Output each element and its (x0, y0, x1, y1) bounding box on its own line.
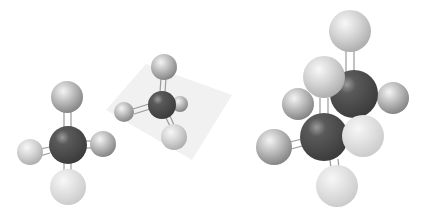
carbon-atom (148, 91, 176, 119)
hydrogen-atom (90, 131, 116, 157)
hydrogen-atom (282, 88, 314, 120)
hydrogen-atom (114, 102, 134, 122)
hydrogen-atom (303, 56, 345, 98)
hydrogen-atom (329, 10, 371, 52)
hydrogen-atom (51, 81, 83, 113)
hydrogen-atom (256, 129, 292, 165)
hydrogen-atom (17, 139, 43, 165)
hydrogen-atom (50, 169, 86, 205)
hydrogen-atom (316, 165, 358, 207)
molecule-illustration (0, 0, 426, 224)
carbon-atom (49, 126, 87, 164)
hydrogen-atom (377, 82, 409, 114)
hydrogen-atom (161, 124, 187, 150)
hydrogen-atom (151, 54, 177, 80)
carbon-atom (300, 113, 348, 161)
hydrogen-atom (342, 115, 384, 157)
